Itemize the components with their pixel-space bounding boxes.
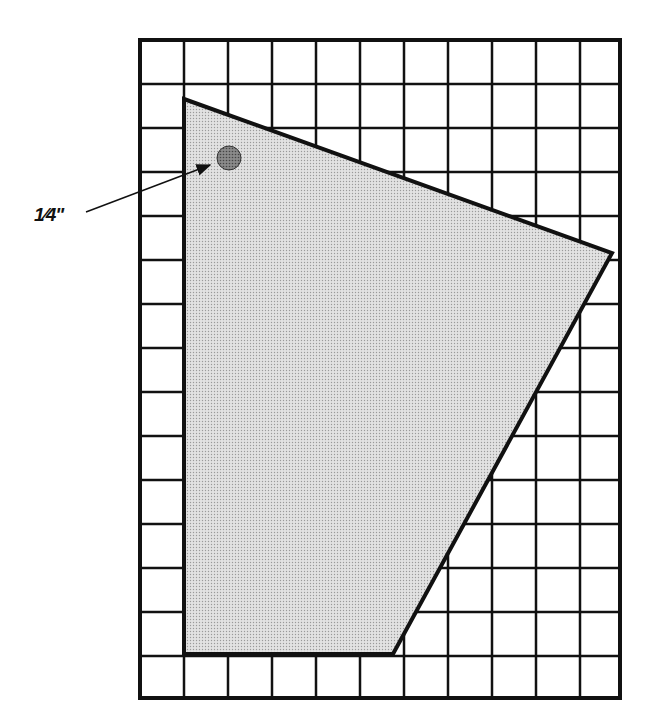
grid-diagram: [0, 0, 657, 716]
shaded-polygon: [184, 99, 612, 654]
dimension-label: 1⁄4": [34, 204, 63, 226]
hole-marker-dot: [217, 146, 241, 170]
